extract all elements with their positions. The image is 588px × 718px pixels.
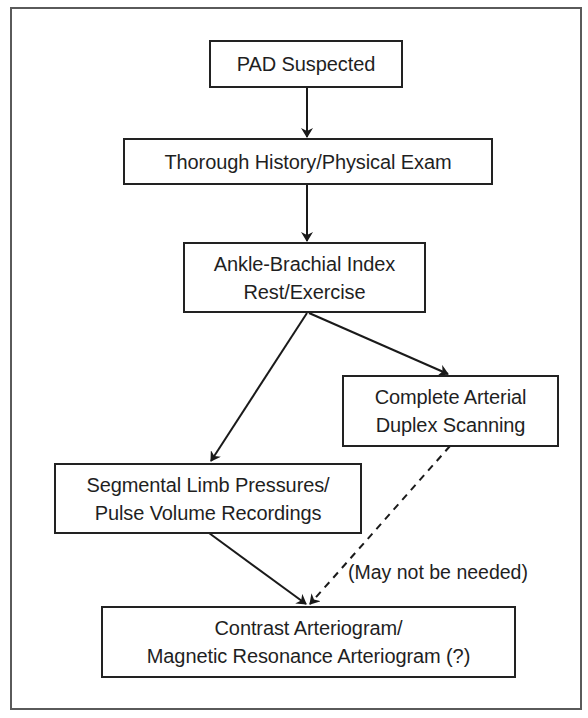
node-segmental-line-1: Segmental Limb Pressures/ [86,471,329,499]
node-pad-suspected: PAD Suspected [209,40,403,88]
node-abi-line-2: Rest/Exercise [243,278,365,306]
node-duplex-line-2: Duplex Scanning [376,411,526,439]
node-segmental-line-2: Pulse Volume Recordings [95,499,322,527]
node-history-exam-label: Thorough History/Physical Exam [164,148,451,176]
node-abi-line-1: Ankle-Brachial Index [214,250,395,278]
diagram-frame [10,7,582,710]
node-arteriogram: Contrast Arteriogram/ Magnetic Resonance… [101,606,516,678]
node-arteriogram-line-1: Contrast Arteriogram/ [215,614,403,642]
node-history-exam: Thorough History/Physical Exam [123,138,493,185]
node-segmental-limb-pressures: Segmental Limb Pressures/ Pulse Volume R… [54,463,362,534]
node-ankle-brachial-index: Ankle-Brachial Index Rest/Exercise [183,242,426,313]
node-arteriogram-line-2: Magnetic Resonance Arteriogram (?) [147,642,470,670]
node-duplex-line-1: Complete Arterial [375,383,527,411]
annotation-may-not-be-needed: (May not be needed) [348,560,528,584]
node-pad-suspected-label: PAD Suspected [237,50,375,78]
node-duplex-scanning: Complete Arterial Duplex Scanning [342,375,559,447]
